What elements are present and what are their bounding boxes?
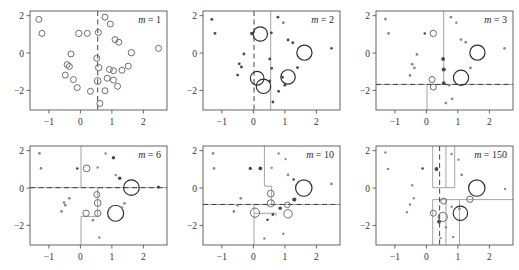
- x-axis-tick-label: 0: [251, 252, 256, 262]
- data-point: [437, 220, 441, 224]
- data-point: [97, 166, 99, 168]
- data-point: [249, 167, 252, 170]
- data-point: [236, 74, 239, 77]
- x-axis-tick-label: −1: [44, 252, 54, 262]
- data-point: [95, 64, 101, 70]
- data-point: [409, 203, 411, 205]
- data-point: [445, 226, 447, 228]
- iteration-label: m = 6: [138, 149, 161, 160]
- data-point: [387, 168, 389, 170]
- data-point: [83, 210, 89, 216]
- figure-boosting-panels: −1012−202m = 1 −1012−202m = 2 −1012−202m…: [0, 0, 519, 270]
- data-point: [83, 165, 90, 172]
- data-point: [270, 31, 273, 34]
- data-point: [76, 167, 79, 170]
- data-point: [469, 180, 485, 196]
- data-point: [155, 45, 161, 51]
- x-axis-tick-label: 0: [78, 252, 83, 262]
- data-point: [238, 62, 241, 65]
- y-axis-tick-label: 2: [365, 146, 370, 156]
- data-point: [240, 66, 243, 69]
- data-point: [36, 16, 42, 22]
- data-point: [84, 30, 90, 36]
- y-axis-tick-label: 2: [365, 11, 370, 21]
- x-axis-tick-label: 1: [283, 252, 288, 262]
- data-point: [266, 219, 269, 222]
- data-point: [287, 174, 290, 177]
- plot-frame: [376, 11, 513, 110]
- data-point: [104, 75, 110, 81]
- data-point: [97, 100, 103, 106]
- x-axis-tick-label: 1: [456, 252, 461, 262]
- data-point: [258, 166, 262, 170]
- data-point: [214, 32, 217, 35]
- scatter-plot-m-150: −1012−202m = 150: [346, 135, 519, 270]
- x-axis-tick-label: 1: [456, 117, 461, 127]
- y-axis-tick-label: −2: [360, 86, 370, 96]
- data-point: [267, 200, 274, 207]
- data-point: [270, 67, 273, 70]
- x-axis-tick-label: 2: [141, 252, 146, 262]
- y-axis-tick-label: 2: [19, 146, 24, 156]
- data-point: [450, 206, 452, 208]
- panel-1: −1012−202m = 2: [173, 0, 346, 135]
- panel-5: −1012−202m = 150: [346, 135, 519, 270]
- y-axis-tick-label: 0: [365, 49, 370, 59]
- data-point: [430, 210, 436, 216]
- data-point: [62, 72, 68, 78]
- data-point: [232, 210, 235, 213]
- data-point: [115, 83, 121, 89]
- data-point: [450, 153, 452, 155]
- data-point: [277, 90, 280, 93]
- data-point: [38, 152, 41, 155]
- data-point: [102, 14, 108, 20]
- data-point: [470, 45, 485, 60]
- data-point: [110, 77, 116, 83]
- data-point: [40, 167, 43, 170]
- data-point: [504, 188, 506, 190]
- data-point: [387, 32, 390, 35]
- data-point: [63, 201, 66, 204]
- x-axis-tick-label: 1: [283, 117, 288, 127]
- scatter-plot-m-6: −1012−202m = 6: [0, 135, 173, 270]
- panel-0: −1012−202m = 1: [0, 0, 173, 135]
- data-point: [330, 47, 333, 50]
- x-axis-tick-label: −1: [44, 117, 54, 127]
- data-point: [95, 29, 101, 35]
- data-point: [68, 197, 71, 200]
- data-point: [413, 67, 416, 70]
- data-point: [287, 39, 290, 42]
- data-point: [94, 55, 100, 61]
- data-point: [330, 183, 333, 186]
- y-axis-tick-label: 0: [19, 184, 24, 194]
- data-point: [236, 204, 239, 207]
- y-axis-tick-label: −2: [14, 86, 24, 96]
- data-point: [267, 190, 274, 197]
- x-axis-tick-label: 0: [78, 117, 83, 127]
- y-axis-tick-label: 0: [19, 49, 24, 59]
- data-point: [270, 167, 272, 169]
- x-axis-tick-label: 2: [487, 252, 492, 262]
- data-point: [448, 84, 451, 87]
- data-point: [413, 197, 415, 199]
- data-point: [271, 101, 274, 104]
- scatter-plot-m-2: −1012−202m = 2: [173, 0, 346, 135]
- data-point: [119, 67, 125, 73]
- x-axis-tick-label: −1: [390, 117, 400, 127]
- y-axis-tick-label: 0: [192, 184, 197, 194]
- data-point: [442, 81, 446, 85]
- data-point: [416, 53, 419, 56]
- data-point: [282, 233, 284, 235]
- data-point: [76, 30, 82, 36]
- data-point: [460, 38, 463, 41]
- data-point: [118, 177, 122, 181]
- data-point: [239, 197, 242, 200]
- data-point: [421, 167, 424, 170]
- y-axis-tick-label: −2: [187, 86, 197, 96]
- data-point: [39, 30, 45, 36]
- x-axis-tick-label: 2: [141, 117, 146, 127]
- data-point: [435, 167, 439, 171]
- iteration-label: m = 3: [484, 14, 507, 25]
- data-point: [112, 156, 116, 160]
- x-axis-tick-label: 0: [424, 117, 429, 127]
